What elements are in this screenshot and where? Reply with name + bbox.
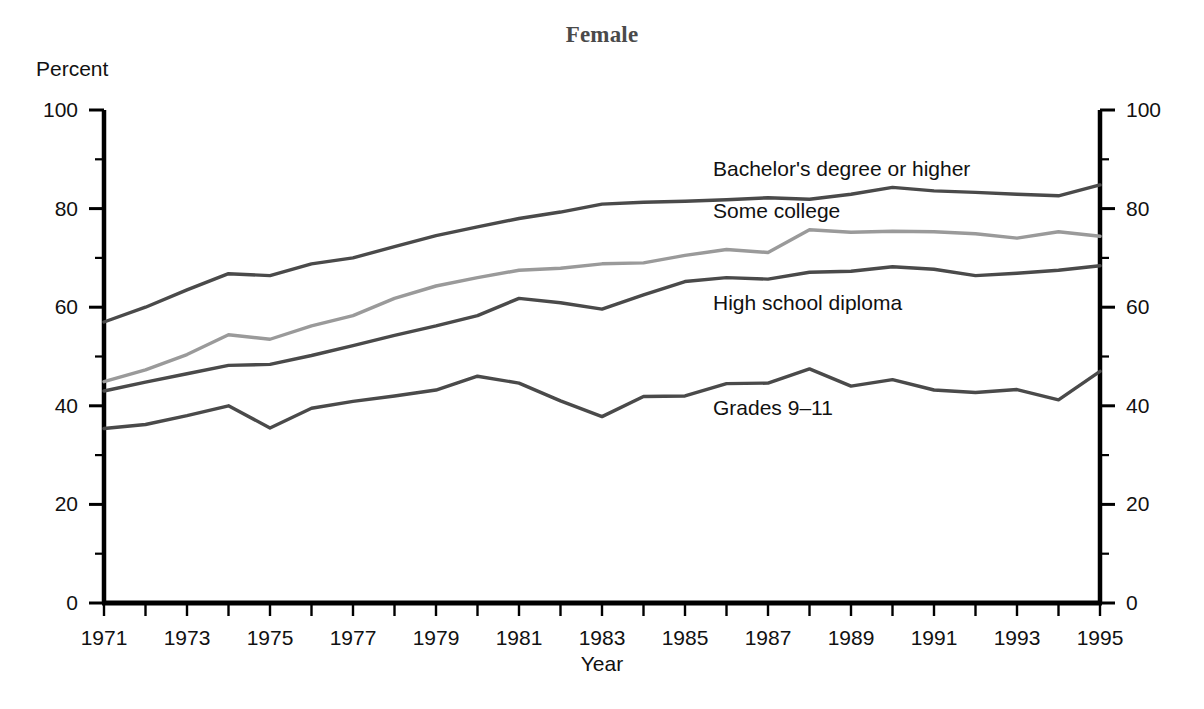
axes-group — [102, 110, 1102, 603]
series-label-some_college: Some college — [713, 199, 840, 222]
x-tick-label-1979: 1979 — [413, 626, 460, 649]
data-line-high_school — [104, 266, 1100, 391]
series-label-grades: Grades 9–11 — [713, 396, 833, 419]
data-line-some_college — [104, 230, 1100, 382]
x-tick-label-1985: 1985 — [662, 626, 709, 649]
data-lines-group — [104, 185, 1100, 429]
data-line-bachelors — [104, 185, 1100, 322]
x-tick-label-1989: 1989 — [828, 626, 875, 649]
x-tick-label-1987: 1987 — [745, 626, 792, 649]
y-tick-label-right-0: 0 — [1126, 591, 1138, 614]
chart-figure: Female Percent Year 00202040406060808010… — [0, 0, 1204, 709]
tick-labels-group: 0020204040606080801001001971197319751977… — [43, 98, 1161, 649]
x-tick-label-1993: 1993 — [994, 626, 1041, 649]
x-tick-label-1995: 1995 — [1077, 626, 1124, 649]
x-tick-label-1975: 1975 — [247, 626, 294, 649]
y-tick-label-right-60: 60 — [1126, 295, 1149, 318]
y-tick-label-left-20: 20 — [55, 492, 78, 515]
plot-area: 0020204040606080801001001971197319751977… — [0, 0, 1204, 709]
tick-marks-group — [89, 110, 1115, 616]
x-tick-label-1983: 1983 — [579, 626, 626, 649]
x-tick-label-1991: 1991 — [911, 626, 958, 649]
y-tick-label-right-40: 40 — [1126, 394, 1149, 417]
y-tick-label-left-100: 100 — [43, 98, 78, 121]
x-tick-label-1981: 1981 — [496, 626, 543, 649]
x-tick-label-1971: 1971 — [81, 626, 128, 649]
y-tick-label-right-20: 20 — [1126, 492, 1149, 515]
data-line-grades — [104, 369, 1100, 429]
y-tick-label-left-0: 0 — [66, 591, 78, 614]
series-label-bachelors: Bachelor's degree or higher — [713, 157, 970, 180]
x-tick-label-1977: 1977 — [330, 626, 377, 649]
y-tick-label-left-80: 80 — [55, 197, 78, 220]
y-tick-label-right-80: 80 — [1126, 197, 1149, 220]
x-tick-label-1973: 1973 — [164, 626, 211, 649]
y-tick-label-left-60: 60 — [55, 295, 78, 318]
y-tick-label-right-100: 100 — [1126, 98, 1161, 121]
series-label-high_school: High school diploma — [713, 291, 902, 314]
y-tick-label-left-40: 40 — [55, 394, 78, 417]
